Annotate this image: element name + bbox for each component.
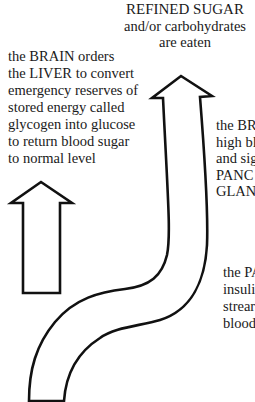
label-line: the BR bbox=[216, 117, 255, 134]
label-line: high bl bbox=[216, 134, 255, 151]
label-line: and sig bbox=[216, 150, 255, 167]
label-line: the PA bbox=[223, 264, 255, 281]
label-line: and/or carbohydrates bbox=[118, 18, 252, 35]
pancreas-insulin-label: the PA insuli strear blood bbox=[223, 264, 255, 332]
label-line: PANC bbox=[216, 167, 255, 184]
label-line: to normal level bbox=[8, 150, 138, 167]
label-line: REFINED SUGAR bbox=[118, 1, 252, 18]
label-line: insuli bbox=[223, 281, 255, 298]
label-line: glycogen into glucose bbox=[8, 116, 138, 133]
label-line: the LIVER to convert bbox=[8, 65, 138, 82]
label-line: stored energy called bbox=[8, 99, 138, 116]
brain-liver-label: the BRAIN orders the LIVER to convert em… bbox=[8, 48, 138, 167]
label-line: to return blood sugar bbox=[8, 133, 138, 150]
liver-response-arrow-icon bbox=[11, 182, 72, 293]
label-line: emergency reserves of bbox=[8, 82, 138, 99]
label-line: GLAN bbox=[216, 183, 255, 200]
label-line: the BRAIN orders bbox=[8, 48, 138, 65]
label-line: strear bbox=[223, 298, 255, 315]
label-line: blood bbox=[223, 315, 255, 332]
sugar-eaten-label: REFINED SUGAR and/or carbohydrates are e… bbox=[118, 1, 252, 51]
brain-pancreas-label: the BR high bl and sig PANC GLAN bbox=[216, 117, 255, 200]
